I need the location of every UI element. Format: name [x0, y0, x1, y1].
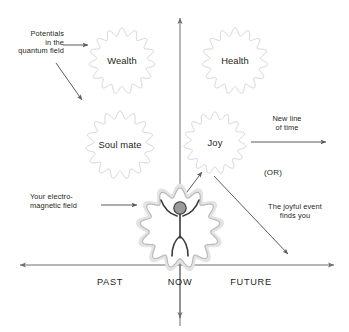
annotation-or: (OR)	[243, 168, 303, 177]
figure-head-icon	[174, 202, 186, 214]
axis-label-future: FUTURE	[218, 277, 284, 288]
bubble-label-wealth: Wealth	[62, 55, 182, 66]
person-in-field	[138, 186, 222, 270]
potential-bubbles-group	[86, 28, 268, 178]
annotation-new-line-of-time: New line of time	[255, 115, 319, 132]
bubble-label-joy: Joy	[155, 137, 275, 148]
diagram-canvas: Potentials in the quantum field Your ele…	[0, 0, 349, 332]
annotation-joyful-event: The joyful event finds you	[247, 203, 343, 220]
bubble-label-health: Health	[175, 55, 295, 66]
axis-label-past: PAST	[80, 277, 140, 288]
potentials-arrow-to-soulmate	[56, 63, 82, 100]
annotation-electromagnetic-field: Your electro- magnetic field	[30, 193, 102, 210]
annotation-potentials: Potentials in the quantum field	[6, 30, 64, 56]
axis-label-now: NOW	[150, 277, 210, 288]
